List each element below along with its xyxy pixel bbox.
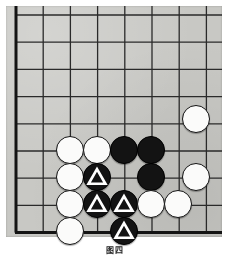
- black-stone[interactable]: [137, 136, 165, 164]
- figure-caption: 图四: [0, 244, 229, 255]
- white-stone[interactable]: [182, 163, 210, 191]
- black-stone[interactable]: [137, 163, 165, 191]
- black-stone[interactable]: [110, 136, 138, 164]
- white-stone[interactable]: [137, 190, 165, 218]
- white-stone[interactable]: [182, 105, 210, 133]
- black-stone[interactable]: [110, 190, 138, 218]
- go-problem-figure: 图四: [0, 0, 229, 259]
- white-stone[interactable]: [164, 190, 192, 218]
- white-stone[interactable]: [83, 136, 111, 164]
- white-stone[interactable]: [56, 163, 84, 191]
- black-stone[interactable]: [83, 163, 111, 191]
- black-stone[interactable]: [110, 217, 138, 245]
- white-stone[interactable]: [56, 217, 84, 245]
- black-stone[interactable]: [83, 190, 111, 218]
- white-stone[interactable]: [56, 136, 84, 164]
- white-stone[interactable]: [56, 190, 84, 218]
